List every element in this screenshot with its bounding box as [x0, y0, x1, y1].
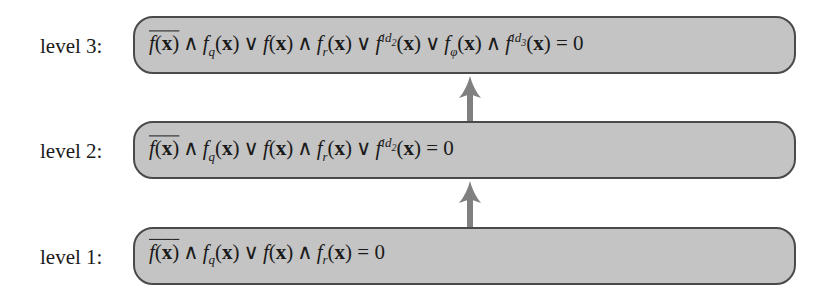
level-1-formula: f(x)∧fq(x)∨f(x)∧fr(x) = 0: [149, 239, 385, 273]
arrow-up-icon: [458, 181, 482, 227]
arrow-up-icon: [458, 76, 482, 122]
level-3-formula: f(x)∧fq(x)∨f(x)∧fr(x)∨fid2(x)∨fφ(x)∧fid3…: [149, 25, 584, 64]
level-1-box: f(x)∧fq(x)∨f(x)∧fr(x) = 0: [133, 227, 796, 285]
level-1-label: level 1:: [40, 245, 102, 269]
level-2-formula: f(x)∧fq(x)∨f(x)∧fr(x)∨fid2(x) = 0: [149, 130, 454, 169]
level-2-box: f(x)∧fq(x)∨f(x)∧fr(x)∨fid2(x) = 0: [133, 121, 796, 179]
level-2-label: level 2:: [40, 139, 102, 163]
level-3-box: f(x)∧fq(x)∨f(x)∧fr(x)∨fid2(x)∨fφ(x)∧fid3…: [133, 16, 796, 74]
level-3-label: level 3:: [40, 34, 102, 58]
